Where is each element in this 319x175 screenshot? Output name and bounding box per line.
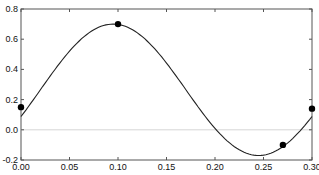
plot-frame (21, 9, 312, 160)
y-tick-label: 0.2 (5, 95, 18, 105)
y-tick-label: -0.2 (2, 155, 18, 165)
data-point (280, 142, 286, 148)
y-tick-label: 0.6 (5, 34, 18, 44)
y-tick-label: 0.8 (5, 4, 18, 14)
x-tick-label: 0.15 (158, 162, 176, 172)
chart: 0.000.050.100.150.200.250.30-0.20.00.20.… (0, 0, 319, 175)
x-tick-label: 0.05 (61, 162, 79, 172)
data-point (115, 21, 121, 27)
data-point (18, 104, 24, 110)
y-tick-label: 0.0 (5, 125, 18, 135)
x-tick-label: 0.25 (255, 162, 273, 172)
curve-line (21, 24, 312, 155)
plot-area: 0.000.050.100.150.200.250.30-0.20.00.20.… (2, 4, 319, 172)
x-tick-label: 0.10 (109, 162, 127, 172)
data-point (309, 105, 315, 111)
x-tick-label: 0.30 (303, 162, 319, 172)
x-tick-label: 0.20 (206, 162, 224, 172)
y-tick-label: 0.4 (5, 64, 18, 74)
